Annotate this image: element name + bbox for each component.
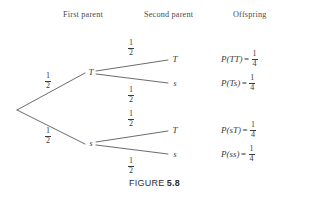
branch-root-to-s	[17, 110, 85, 144]
tree-branch-lines	[0, 0, 309, 201]
probability-label-T-to-s: 1 2	[128, 86, 134, 104]
outcome-expression: P(sT)	[221, 125, 241, 135]
node-first-parent-s: s	[89, 139, 92, 148]
outcome-fraction: 1 4	[249, 145, 255, 163]
fraction-denominator: 2	[128, 167, 134, 176]
caption-number: 5.8	[167, 178, 180, 188]
equals-sign: =	[244, 54, 249, 64]
fraction-denominator: 4	[249, 84, 255, 93]
caption-word: FIGURE	[129, 178, 165, 188]
outcome-expression: P(ss)	[221, 149, 240, 159]
node-second-parent-s-lower: s	[173, 150, 176, 159]
branch-root-to-T	[17, 73, 85, 110]
node-second-parent-T-lower: T	[172, 125, 177, 135]
outcome-probability-Ts: P(Ts) = 1 4	[221, 74, 255, 92]
outcome-probability-ss: P(ss) = 1 4	[221, 145, 255, 163]
equals-sign: =	[242, 78, 247, 88]
branch-T-to-s	[96, 74, 168, 83]
probability-label-T-to-T: 1 2	[128, 39, 134, 57]
probability-label-s-to-s: 1 2	[128, 157, 134, 175]
outcome-probability-sT: P(sT) = 1 4	[221, 121, 256, 139]
fraction-denominator: 2	[128, 49, 134, 58]
equals-sign: =	[241, 149, 246, 159]
probability-label-s-to-T: 1 2	[128, 110, 134, 128]
branch-T-to-T	[96, 60, 168, 71]
outcome-fraction: 1 4	[249, 74, 255, 92]
probability-label-root-to-T: 1 2	[45, 72, 51, 90]
fraction-denominator: 4	[250, 131, 256, 140]
outcome-fraction: 1 4	[250, 121, 256, 139]
fraction-denominator: 4	[249, 155, 255, 164]
outcome-probability-TT: P(TT) = 1 4	[221, 50, 258, 68]
figure-container: First parent Second parent Offspring T s…	[0, 0, 309, 201]
fraction-denominator: 2	[128, 96, 134, 105]
branch-s-to-s	[96, 145, 168, 154]
node-first-parent-T: T	[88, 67, 93, 77]
outcome-fraction: 1 4	[252, 50, 258, 68]
fraction-denominator: 2	[45, 82, 51, 91]
fraction-denominator: 4	[252, 60, 258, 69]
probability-label-root-to-s: 1 2	[45, 127, 51, 145]
node-second-parent-s-upper: s	[173, 79, 176, 88]
branch-s-to-T	[96, 131, 168, 142]
fraction-denominator: 2	[128, 120, 134, 129]
equals-sign: =	[243, 125, 248, 135]
outcome-expression: P(TT)	[221, 54, 243, 64]
outcome-expression: P(Ts)	[221, 78, 240, 88]
fraction-denominator: 2	[45, 137, 51, 146]
node-second-parent-T-upper: T	[172, 54, 177, 64]
figure-caption: FIGURE5.8	[0, 178, 309, 188]
